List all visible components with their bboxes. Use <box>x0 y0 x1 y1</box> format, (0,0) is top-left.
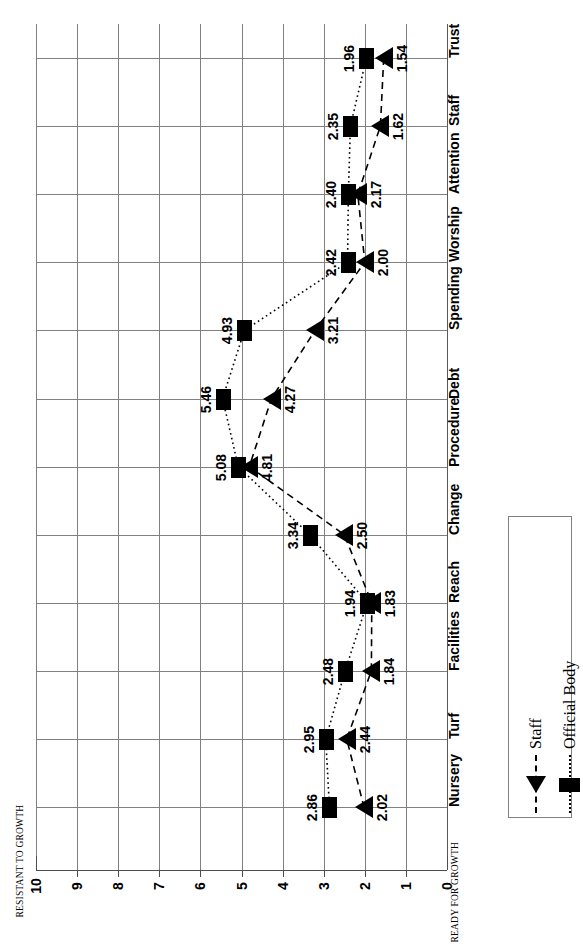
square-data-point <box>303 525 318 546</box>
data-label: 2.50 <box>354 513 371 557</box>
data-label: 1.62 <box>390 105 407 149</box>
triangle-data-point <box>240 456 258 478</box>
triangle-data-point <box>263 388 281 410</box>
square-marker-icon <box>558 755 582 813</box>
square-data-point <box>319 729 334 750</box>
data-label: 2.35 <box>325 105 342 149</box>
axis-caption-resistant: RESISTANT TO GROWTH <box>15 854 26 918</box>
value-axis-tick-label: 5 <box>234 873 250 899</box>
value-axis-tick-label: 6 <box>192 873 208 899</box>
triangle-data-point <box>306 319 324 341</box>
triangle-data-point <box>335 524 353 546</box>
gridline-vertical <box>118 24 119 870</box>
triangle-data-point <box>375 47 393 69</box>
data-label: 2.42 <box>322 241 339 285</box>
data-label: 2.40 <box>323 173 340 217</box>
axis-caption-ready: READY FOR GROWTH <box>450 879 461 943</box>
gridline-vertical <box>242 24 243 870</box>
value-axis-tick <box>447 856 448 870</box>
value-axis-tick-label: 9 <box>69 873 85 899</box>
category-label-nursery: Nursery <box>446 717 464 807</box>
value-axis-tick-label: 3 <box>316 873 332 899</box>
triangle-data-point <box>371 115 389 137</box>
triangle-data-point <box>349 183 367 205</box>
legend-label-staff: Staff <box>527 718 545 749</box>
data-label: 2.86 <box>304 786 321 830</box>
value-axis-tick-label: 7 <box>151 873 167 899</box>
triangle-data-point <box>356 251 374 273</box>
data-label: 1.96 <box>341 37 358 81</box>
data-label: 4.27 <box>281 377 298 421</box>
triangle-marker-icon <box>524 755 548 813</box>
value-axis-tick-label: 2 <box>357 873 373 899</box>
data-label: 2.95 <box>300 718 317 762</box>
gridline-horizontal <box>36 194 447 195</box>
chart-canvas: 1.962.352.402.424.935.465.083.341.942.48… <box>0 0 583 946</box>
data-label: 5.08 <box>213 445 230 489</box>
data-label: 4.93 <box>219 309 236 353</box>
data-label: 3.21 <box>325 309 342 353</box>
data-label: 2.48 <box>320 649 337 693</box>
value-axis-tick-label: 8 <box>110 873 126 899</box>
plot-area <box>36 24 447 870</box>
gridline-vertical <box>77 24 78 870</box>
triangle-data-point <box>338 728 356 750</box>
gridline-horizontal <box>36 399 447 400</box>
gridline-vertical <box>159 24 160 870</box>
data-label: 2.00 <box>374 241 391 285</box>
gridline-horizontal <box>36 739 447 740</box>
triangle-data-point <box>355 796 373 818</box>
legend-item-official-body[interactable]: Official Body <box>555 513 583 813</box>
legend-item-staff[interactable]: Staff <box>521 513 551 813</box>
data-label: 1.83 <box>381 581 398 625</box>
data-label: 2.02 <box>373 786 390 830</box>
value-axis-tick <box>36 856 37 870</box>
square-data-point <box>359 48 374 69</box>
gridline-vertical <box>406 24 407 870</box>
data-label: 1.54 <box>393 37 410 81</box>
gridline-vertical <box>283 24 284 870</box>
data-label: 3.34 <box>284 513 301 557</box>
square-data-point <box>216 389 231 410</box>
gridline-vertical <box>200 24 201 870</box>
chart-legend: Official Body Staff <box>508 516 572 818</box>
value-axis-tick-label: 1 <box>398 873 414 899</box>
data-label: 2.44 <box>356 718 373 762</box>
triangle-data-point <box>363 592 381 614</box>
value-axis-tick-label: 4 <box>275 873 291 899</box>
square-data-point <box>237 320 252 341</box>
square-data-point <box>341 252 356 273</box>
data-label: 4.81 <box>259 445 276 489</box>
value-axis-tick-label: 10 <box>28 873 44 899</box>
square-data-point <box>343 116 358 137</box>
data-label: 1.94 <box>342 581 359 625</box>
square-data-point <box>322 797 337 818</box>
data-label: 5.46 <box>197 377 214 421</box>
data-label: 1.84 <box>381 649 398 693</box>
triangle-data-point <box>362 660 380 682</box>
legend-label-official-body: Official Body <box>561 661 579 749</box>
gridline-vertical <box>36 24 37 870</box>
gridline-horizontal <box>36 535 447 536</box>
square-data-point <box>338 661 353 682</box>
data-label: 2.17 <box>367 173 384 217</box>
